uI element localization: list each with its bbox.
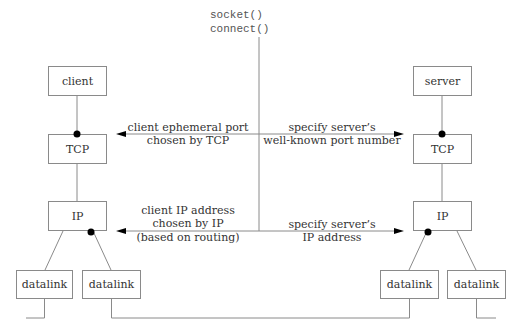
server-stack: server TCP IP datalink datalink xyxy=(381,67,506,319)
client-stack: client TCP IP datalink datalink xyxy=(17,67,141,319)
client-tcp-label: TCP xyxy=(66,143,90,156)
api-call-connect: connect() xyxy=(210,23,269,35)
client-ip-dot xyxy=(88,229,95,236)
server-datalink-1-label: datalink xyxy=(387,278,433,291)
tcp-right-note-2: well-known port number xyxy=(263,134,401,147)
server-tcp-label: TCP xyxy=(431,143,455,156)
client-label: client xyxy=(62,75,94,88)
ip-left-note-2: chosen by IP xyxy=(152,217,224,230)
ip-right-note-2: IP address xyxy=(303,231,362,244)
ip-right-note-1: specify server’s xyxy=(288,218,376,231)
ip-datalink2-link-right xyxy=(457,231,476,270)
api-call-socket: socket() xyxy=(210,9,263,21)
server-port-dot xyxy=(439,131,446,138)
tcp-left-arrowhead-icon xyxy=(116,131,126,137)
tcp-connect-diagram: socket() connect() client TCP IP datalin… xyxy=(0,0,520,335)
server-datalink-2-wire xyxy=(477,299,497,318)
client-ip-label: IP xyxy=(72,210,84,223)
tcp-left-note-2: chosen by TCP xyxy=(147,134,230,147)
tcp-right-note-1: specify server’s xyxy=(288,121,376,134)
ip-datalink2-link-left xyxy=(93,231,111,270)
server-label: server xyxy=(425,75,461,88)
client-port-dot xyxy=(74,131,81,138)
ip-left-note-3: (based on routing) xyxy=(136,231,239,244)
ip-left-arrowhead-icon xyxy=(116,228,126,234)
ip-right-arrowhead-icon xyxy=(394,228,404,234)
server-ip-dot xyxy=(425,229,432,236)
client-datalink-2-label: datalink xyxy=(89,278,135,291)
tcp-left-note-1: client ephemeral port xyxy=(128,121,250,134)
network-wire xyxy=(112,299,410,318)
client-datalink-1-wire xyxy=(26,299,45,318)
ip-datalink1-link-right xyxy=(409,231,427,270)
ip-datalink1-link-left xyxy=(45,231,63,270)
server-ip-label: IP xyxy=(437,210,449,223)
ip-left-note-1: client IP address xyxy=(141,204,235,217)
server-datalink-2-label: datalink xyxy=(454,278,500,291)
client-datalink-1-label: datalink xyxy=(22,278,68,291)
